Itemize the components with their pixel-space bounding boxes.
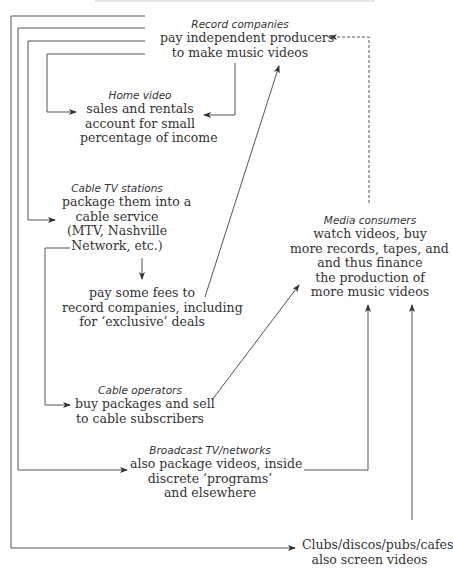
node-media-consumers: Media consumers watch videos, buy more r… (290, 213, 450, 300)
arrow-fees-to-record-companies (205, 66, 279, 297)
node-text: percentage of income (80, 131, 200, 146)
arrow-to-home-video-right (204, 63, 235, 115)
node-text: cable service (62, 210, 172, 225)
node-text: the production of (290, 271, 450, 286)
dashed-feedback-arrow (330, 37, 369, 203)
node-text: watch videos, buy (290, 227, 450, 242)
node-text: record companies, including (62, 301, 222, 316)
node-text: (MTV, Nashville (62, 224, 172, 239)
node-title: Cable TV stations (62, 181, 172, 195)
node-title: Home video (80, 88, 200, 102)
node-text: to cable subscribers (75, 412, 205, 427)
node-text: and thus finance (290, 256, 450, 271)
node-record-companies: Record companies pay independent produce… (160, 17, 320, 60)
node-text: for ‘exclusive’ deals (62, 315, 222, 330)
node-title: Broadcast TV/networks (130, 443, 290, 457)
node-text: pay independent producers (160, 31, 320, 46)
arrow-broadcast-to-consumers (304, 305, 368, 470)
node-title: Record companies (160, 17, 320, 31)
node-text: also package videos, inside (130, 457, 290, 472)
node-text: and elsewhere (130, 486, 290, 501)
node-text: more records, tapes, and CDs, (290, 242, 450, 257)
node-text: Network, etc.) (62, 239, 172, 254)
node-text: discrete ‘programs’ (130, 472, 290, 487)
node-text: account for small (80, 117, 200, 132)
node-title: Cable operators (75, 383, 205, 397)
node-home-video: Home video sales and rentals account for… (80, 88, 200, 146)
node-cable-operators: Cable operators buy packages and sell to… (75, 383, 205, 426)
node-broadcast-tv: Broadcast TV/networks also package video… (130, 443, 290, 501)
node-text: package them into a (62, 195, 172, 210)
node-text: to make music videos (160, 46, 320, 61)
node-text: sales and rentals (80, 102, 200, 117)
node-title: Media consumers (290, 213, 450, 227)
node-text: Clubs/discos/pubs/cafes (302, 538, 437, 553)
node-cable-tv-stations: Cable TV stations package them into a ca… (62, 181, 172, 253)
node-text: pay some fees to (62, 286, 222, 301)
node-text: more music videos (290, 285, 450, 300)
node-text: buy packages and sell (75, 397, 205, 412)
node-text: also screen videos (302, 553, 437, 568)
node-clubs: Clubs/discos/pubs/cafes also screen vide… (302, 538, 437, 567)
node-pay-fees: pay some fees to record companies, inclu… (62, 286, 222, 330)
flow-diagram: Record companies pay independent produce… (0, 0, 453, 574)
